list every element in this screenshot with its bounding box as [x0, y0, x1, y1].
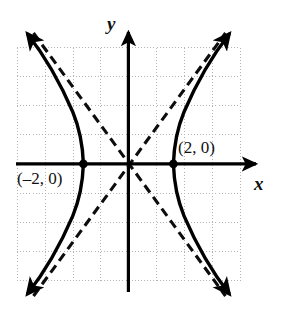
x-axis-label: x: [254, 174, 264, 193]
right-vertex-label: (2, 0): [178, 139, 215, 156]
left-vertex-point: [79, 160, 88, 169]
graph-canvas: [0, 0, 286, 313]
left-vertex-label: (–2, 0): [17, 170, 62, 187]
right-vertex-point: [169, 160, 178, 169]
y-axis-label: y: [107, 14, 115, 33]
hyperbola-figure: y x (–2, 0) (2, 0): [0, 0, 286, 313]
